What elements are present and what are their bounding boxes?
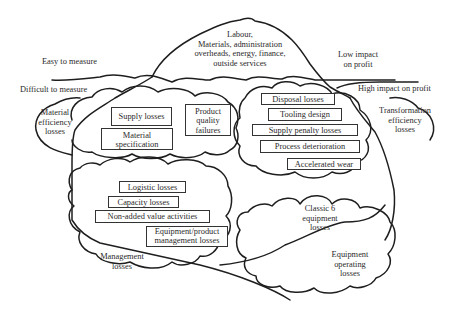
box-non-added-value: Non-added value activities (95, 210, 210, 223)
tip-line-4: outside services (180, 59, 300, 69)
box-product-quality-failures: Product quality failures (185, 104, 231, 136)
box-equipment-product-management: Equipment/product management losses (146, 226, 228, 247)
label-line: operating (318, 260, 382, 270)
classic-six-label: Classic 6 equipment losses (290, 204, 350, 233)
label-line: Management (92, 252, 152, 262)
box-material-specification: Material specification (101, 128, 173, 150)
management-losses-label: Management losses (92, 252, 152, 271)
low-impact-label: Low impact on profit (328, 50, 388, 69)
waterline-upper (52, 75, 395, 82)
label-line: Classic 6 (290, 204, 350, 214)
label-line: losses (30, 127, 80, 137)
low-impact-line-1: Low impact (328, 50, 388, 60)
box-line: specification (102, 140, 172, 149)
label-line: Material (30, 108, 80, 118)
difficult-to-measure-label: Difficult to measure (20, 85, 87, 95)
label-line: efficiency (30, 118, 80, 128)
box-capacity-losses: Capacity losses (108, 196, 179, 208)
equipment-operating-label: Equipment operating losses (318, 250, 382, 279)
iceberg-tip-label: Labour, Materials, administration overhe… (180, 30, 300, 68)
box-line: failures (186, 126, 230, 135)
box-process-deterioration: Process deterioration (260, 140, 360, 153)
low-impact-line-2: on profit (328, 60, 388, 70)
high-impact-label: High impact on profit (358, 84, 431, 94)
box-line: quality (186, 116, 230, 125)
transformation-efficiency-label: Transformation efficiency losses (369, 106, 441, 135)
box-line: Material (102, 131, 172, 140)
box-tooling-design: Tooling design (268, 108, 342, 121)
label-line: losses (369, 125, 441, 135)
tip-line-3: overheads, energy, finance, (180, 49, 300, 59)
label-line: Transformation (369, 106, 441, 116)
box-disposal-losses: Disposal losses (261, 93, 335, 105)
easy-to-measure-label: Easy to measure (42, 57, 97, 67)
label-line: losses (92, 262, 152, 272)
box-supply-losses: Supply losses (111, 107, 172, 126)
box-supply-penalty-losses: Supply penalty losses (252, 124, 358, 136)
tip-line-2: Materials, administration (180, 40, 300, 50)
label-line: losses (290, 223, 350, 233)
material-efficiency-label: Material efficiency losses (30, 108, 80, 137)
box-line: management losses (147, 237, 227, 246)
box-line: Product (186, 107, 230, 116)
label-line: Equipment (318, 250, 382, 260)
label-line: losses (318, 269, 382, 279)
label-line: efficiency (369, 116, 441, 126)
tip-line-1: Labour, (180, 30, 300, 40)
box-accelerated-wear: Accelerated wear (287, 158, 361, 170)
label-line: equipment (290, 214, 350, 224)
box-logistic-losses: Logistic losses (119, 181, 186, 193)
